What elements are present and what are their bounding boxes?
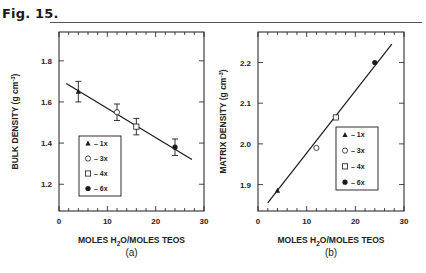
x-tick-label: 10 xyxy=(103,217,112,226)
y-tick-label: 1.2 xyxy=(41,180,53,189)
x-axis-label-part: O/MOLES TEOS xyxy=(120,235,185,245)
data-point-3x xyxy=(114,110,119,115)
legend-label: – 3x xyxy=(351,147,365,154)
x-axis-label: MOLES H2O/MOLES TEOS xyxy=(78,235,185,247)
panel-label: (b) xyxy=(325,247,337,258)
y-axis-label: MATRIX DENSITY (g cm-3) xyxy=(218,69,228,173)
y-tick-label: 2.1 xyxy=(240,99,252,108)
y-tick-label: 2.2 xyxy=(240,59,252,68)
legend-label: – 4x xyxy=(94,170,108,177)
x-axis-label-part: MOLES H xyxy=(78,235,117,245)
data-point-4x xyxy=(333,115,338,120)
legend-open-circle-icon xyxy=(85,156,90,161)
y-axis-label-part: ) xyxy=(218,69,228,72)
legend-open-square-icon xyxy=(85,171,90,176)
data-point-6x xyxy=(372,60,377,65)
legend-open-square-icon xyxy=(342,164,347,169)
x-axis-label-part: MOLES H xyxy=(277,235,316,245)
x-tick-label: 10 xyxy=(302,217,311,226)
x-tick-label: 30 xyxy=(200,217,209,226)
y-tick-label: 1.9 xyxy=(240,181,252,190)
legend-filled-circle-icon xyxy=(85,186,90,191)
legend-label: – 1x xyxy=(94,140,108,147)
x-tick-label: 0 xyxy=(256,217,261,226)
chart-panel-b: 01020301.92.02.12.2MOLES H2O/MOLES TEOSM… xyxy=(218,32,409,258)
x-tick-label: 0 xyxy=(57,217,62,226)
legend: – 1x– 3x– 4x– 6x xyxy=(336,127,378,190)
data-point-3x xyxy=(314,145,319,150)
y-tick-label: 1.6 xyxy=(41,98,53,107)
y-axis-label-part: ) xyxy=(10,73,20,76)
panel-label: (a) xyxy=(125,247,137,258)
y-axis-label-part: BULK DENSITY (g cm xyxy=(10,81,20,169)
x-axis-label: MOLES H2O/MOLES TEOS xyxy=(277,235,384,247)
legend-label: – 3x xyxy=(94,155,108,162)
y-axis-label-part: MATRIX DENSITY (g cm xyxy=(218,77,228,173)
legend-filled-circle-icon xyxy=(342,180,347,185)
legend-open-circle-icon xyxy=(342,148,347,153)
data-point-6x xyxy=(172,145,177,150)
legend-label: – 6x xyxy=(94,185,108,192)
x-tick-label: 20 xyxy=(351,217,360,226)
legend: – 1x– 3x– 4x– 6x xyxy=(79,136,121,196)
chart-panel-a: 01020301.21.41.61.8MOLES H2O/MOLES TEOSB… xyxy=(10,32,209,258)
x-tick-label: 20 xyxy=(151,217,160,226)
y-tick-label: 1.8 xyxy=(41,57,53,66)
legend-label: – 1x xyxy=(351,131,365,138)
y-axis-label: BULK DENSITY (g cm-3) xyxy=(10,73,20,169)
x-tick-label: 30 xyxy=(400,217,409,226)
legend-label: – 6x xyxy=(351,179,365,186)
y-tick-label: 2.0 xyxy=(240,140,252,149)
y-tick-label: 1.4 xyxy=(41,139,53,148)
legend-label: – 4x xyxy=(351,163,365,170)
x-axis-label-part: O/MOLES TEOS xyxy=(320,235,385,245)
data-point-4x xyxy=(134,124,139,129)
figure-canvas: 01020301.21.41.61.8MOLES H2O/MOLES TEOSB… xyxy=(0,0,426,273)
